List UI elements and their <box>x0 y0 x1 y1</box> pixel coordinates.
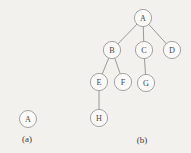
tree-edge <box>118 24 137 44</box>
tree-figure: AABCDEFGH (a)(b) <box>0 0 191 153</box>
nodes-layer: AABCDEFGH <box>20 9 181 127</box>
tree-edge <box>102 58 109 74</box>
node-label: A <box>140 14 146 23</box>
node-label: C <box>141 46 147 55</box>
panel-caption-a: (a) <box>22 134 32 144</box>
tree-edge <box>115 58 120 74</box>
tree-node-d: D <box>163 41 180 58</box>
tree-node-a: A <box>134 9 151 26</box>
panel-caption-b: (b) <box>137 135 148 145</box>
tree-node-g: G <box>137 74 154 91</box>
tree-diagram-canvas: AABCDEFGH (a)(b) <box>0 0 191 153</box>
node-label: E <box>96 78 101 87</box>
tree-node-b: B <box>103 41 120 58</box>
tree-node-h: H <box>90 109 107 126</box>
panel-captions-layer: (a)(b) <box>22 134 147 145</box>
tree-node-a: A <box>20 111 37 128</box>
node-label: B <box>109 46 115 55</box>
edges-layer <box>99 24 166 109</box>
node-label: F <box>121 78 126 87</box>
tree-edge <box>149 24 166 43</box>
node-label: A <box>25 115 31 124</box>
tree-node-c: C <box>135 41 152 58</box>
node-label: D <box>169 46 175 55</box>
tree-edge <box>145 59 146 75</box>
node-label: G <box>143 79 149 88</box>
tree-node-e: E <box>90 73 107 90</box>
tree-node-f: F <box>114 73 131 90</box>
node-label: H <box>96 114 102 123</box>
